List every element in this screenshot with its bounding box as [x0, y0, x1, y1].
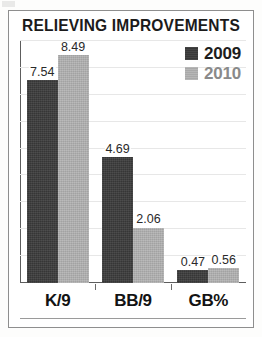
bar-wrapper: 2.06	[133, 41, 164, 283]
bar-2009-BB9[interactable]: 4.69	[102, 157, 133, 283]
chart-title: RELIEVING IMPROVEMENTS	[16, 16, 245, 35]
legend-label: 2009	[204, 45, 241, 62]
bar-group: 4.692.06	[95, 41, 170, 283]
bar-wrapper: 8.49	[58, 41, 89, 283]
legend-swatch-2009	[185, 47, 198, 60]
x-axis-tick-BB9: BB/9	[95, 285, 170, 317]
bar-value-label: 7.54	[29, 66, 55, 79]
bar-wrapper: 7.54	[27, 41, 58, 283]
bar-wrapper: 4.69	[102, 41, 133, 283]
scan-artifact-speck	[2, 1, 15, 7]
bar-2010-GB[interactable]: 0.56	[208, 268, 239, 283]
chart-legend: 20092010	[185, 45, 241, 82]
x-axis-tick-GB: GB%	[171, 285, 246, 317]
x-axis-bottom-rule	[20, 318, 246, 319]
bar-2010-K9[interactable]: 8.49	[58, 55, 89, 283]
bar-value-label: 4.69	[104, 143, 130, 156]
x-axis-tick-K9: K/9	[20, 285, 95, 317]
bar-value-label: 0.56	[211, 254, 237, 267]
legend-item-2009[interactable]: 2009	[185, 45, 241, 62]
bar-group: 7.548.49	[20, 41, 95, 283]
bar-value-label: 2.06	[135, 213, 161, 226]
x-axis-labels: K/9BB/9GB%	[20, 285, 246, 317]
legend-swatch-2010	[185, 67, 198, 80]
bar-value-label: 0.47	[180, 256, 206, 269]
bar-2009-K9[interactable]: 7.54	[27, 80, 58, 283]
scanned-page: RELIEVING IMPROVEMENTS 7.548.494.692.060…	[0, 0, 262, 337]
chart-frame: RELIEVING IMPROVEMENTS 7.548.494.692.060…	[8, 10, 254, 328]
legend-label: 2010	[204, 65, 241, 82]
legend-item-2010[interactable]: 2010	[185, 65, 241, 82]
bar-2010-BB9[interactable]: 2.06	[133, 228, 164, 283]
bar-2009-GB[interactable]: 0.47	[177, 270, 208, 283]
bar-value-label: 8.49	[60, 41, 86, 54]
